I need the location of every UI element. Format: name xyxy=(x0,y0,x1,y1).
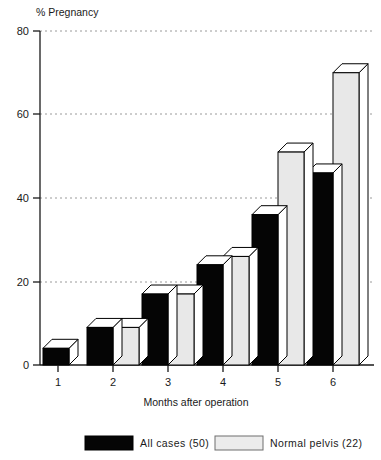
bar-all-cases-month-6-side-face xyxy=(333,164,342,365)
chart-canvas: % Pregnancy 80 60 40 20 0 xyxy=(0,0,381,460)
x-tickmarks xyxy=(58,365,333,372)
y-tick-label-80: 80 xyxy=(17,25,29,37)
legend-label-normal-pelvis: Normal pelvis (22) xyxy=(270,437,362,449)
pregnancy-rate-bar-chart: % Pregnancy 80 60 40 20 0 xyxy=(0,0,381,460)
bar-all-cases-month-1 xyxy=(43,339,78,365)
bar-normal-pelvis-month-6-side-face xyxy=(359,64,368,365)
x-tick-label-1: 1 xyxy=(55,376,61,388)
y-tick-label-40: 40 xyxy=(17,192,29,204)
bar-all-cases-month-2-front-face xyxy=(87,327,113,365)
bar-normal-pelvis-month-4-side-face xyxy=(249,247,258,365)
bar-normal-pelvis-month-3-side-face xyxy=(194,285,203,365)
bar-all-cases-month-5-side-face xyxy=(278,206,287,365)
bars-layer xyxy=(43,64,368,365)
x-tick-label-2: 2 xyxy=(110,376,116,388)
bar-normal-pelvis-month-5-side-face xyxy=(304,143,313,365)
bar-all-cases-month-1-front-face xyxy=(43,348,69,365)
y-tick-label-0: 0 xyxy=(23,359,29,371)
x-tick-label-3: 3 xyxy=(165,376,171,388)
y-axis-title: % Pregnancy xyxy=(36,6,99,18)
x-tick-label-4: 4 xyxy=(220,376,226,388)
legend-swatch-all-cases xyxy=(85,436,133,450)
x-axis-title: Months after operation xyxy=(143,396,248,408)
y-tick-label-20: 20 xyxy=(17,276,29,288)
bar-all-cases-month-2 xyxy=(87,318,122,365)
chart-legend: All cases (50) Normal pelvis (22) xyxy=(85,436,362,450)
bar-all-cases-month-3-side-face xyxy=(168,285,177,365)
x-tick-label-6: 6 xyxy=(330,376,336,388)
bar-all-cases-month-4-side-face xyxy=(223,256,232,365)
legend-swatch-normal-pelvis xyxy=(215,436,263,450)
x-tick-label-5: 5 xyxy=(275,376,281,388)
y-tick-label-60: 60 xyxy=(17,108,29,120)
y-tickmarks xyxy=(33,31,40,365)
legend-label-all-cases: All cases (50) xyxy=(140,437,209,449)
